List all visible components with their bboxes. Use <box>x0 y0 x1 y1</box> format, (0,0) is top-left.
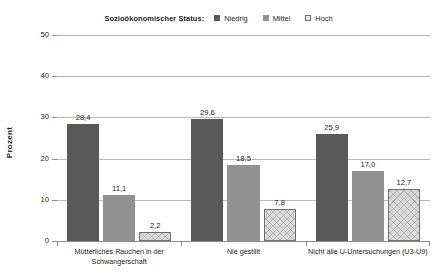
legend-label-hoch: Hoch <box>315 14 332 23</box>
y-tick-mark <box>52 200 57 201</box>
bar-niedrig-1[interactable] <box>191 119 223 241</box>
bar-value-label: 25,9 <box>316 123 348 132</box>
x-axis-tick <box>306 242 307 246</box>
category-label-2: Nicht alle U-Untersuchungen (U3-U9) <box>306 247 430 257</box>
bar-niedrig-0[interactable] <box>67 124 99 241</box>
y-tick-mark <box>52 76 57 77</box>
legend-swatch-mittel <box>263 15 269 21</box>
bar-hoch-1[interactable] <box>264 209 296 241</box>
y-tick-mark <box>52 159 57 160</box>
x-axis-line <box>57 241 430 242</box>
bar-value-label: 18,5 <box>227 154 259 163</box>
bar-hoch-0[interactable] <box>139 232 171 241</box>
bar-value-label: 29,6 <box>191 108 223 117</box>
x-axis-tick <box>429 242 430 246</box>
x-axis-tick <box>181 242 182 246</box>
legend-swatch-niedrig <box>214 15 220 21</box>
gridline <box>57 76 430 77</box>
y-axis-title-text: Prozent <box>6 126 15 157</box>
y-tick-label: 10 <box>21 195 49 204</box>
legend-entry-niedrig[interactable]: Niedrig <box>214 14 247 23</box>
category-label-0: Mütterliches Rauchen in derSchwangerscha… <box>57 247 181 266</box>
bar-value-label: 7,8 <box>264 198 296 207</box>
bar-value-label: 2,2 <box>139 221 171 230</box>
bar-value-label: 17,0 <box>352 160 384 169</box>
y-tick-label: 0 <box>21 236 49 245</box>
legend-label-niedrig: Niedrig <box>224 14 247 23</box>
y-tick-mark <box>52 35 57 36</box>
bar-value-label: 11,1 <box>103 184 135 193</box>
legend-title: Sozioökonomischer Status: <box>104 14 204 23</box>
legend-label-mittel: Mittel <box>273 14 291 23</box>
legend-entry-mittel[interactable]: Mittel <box>263 14 291 23</box>
y-tick-label: 30 <box>21 112 49 121</box>
gridline <box>57 117 430 118</box>
y-axis-title: Prozent <box>3 112 17 172</box>
y-tick-label: 40 <box>21 71 49 80</box>
bar-hoch-2[interactable] <box>388 189 420 241</box>
gridline <box>57 35 430 36</box>
category-label-1: Nie gestillt <box>181 247 305 257</box>
bar-value-label: 28,4 <box>67 113 99 122</box>
chart-legend: Sozioökonomischer Status: Niedrig Mittel… <box>0 9 437 27</box>
y-tick-label: 50 <box>21 30 49 39</box>
legend-swatch-hoch <box>305 15 311 21</box>
x-axis-tick <box>57 242 58 246</box>
plot-area: 01020304050 28,411,12,229,618,57,825,917… <box>57 35 430 241</box>
y-tick-label: 20 <box>21 154 49 163</box>
legend-entry-hoch[interactable]: Hoch <box>305 14 332 23</box>
y-tick-mark <box>52 117 57 118</box>
bar-niedrig-2[interactable] <box>316 134 348 241</box>
bar-mittel-2[interactable] <box>352 171 384 241</box>
bar-value-label: 12,7 <box>388 178 420 187</box>
bar-mittel-1[interactable] <box>227 165 259 241</box>
bar-mittel-0[interactable] <box>103 195 135 241</box>
